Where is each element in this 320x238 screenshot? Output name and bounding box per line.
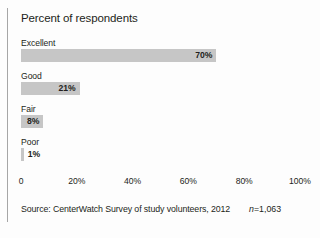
bar-category-label-good: Good xyxy=(21,71,300,81)
bar-row-fair: 8% xyxy=(21,115,300,128)
x-axis-tick-100: 100% xyxy=(289,176,311,187)
bar-value-label-excellent: 70% xyxy=(195,50,212,61)
bar-group-poor: Poor 1% xyxy=(21,137,300,161)
bar-good: 21% xyxy=(21,82,80,95)
bar-group-excellent: Excellent 70% xyxy=(21,38,300,62)
bar-value-label-good: 21% xyxy=(59,83,76,94)
sample-size-value: =1,063 xyxy=(254,204,281,214)
bar-poor: 1% xyxy=(21,148,24,161)
bar-chart-plot-area: Excellent 70% Good 21% Fair 8% xyxy=(21,38,300,172)
bar-fair: 8% xyxy=(21,115,43,128)
bar-category-label-excellent: Excellent xyxy=(21,38,300,48)
chart-figure: Percent of respondents Excellent 70% Goo… xyxy=(0,0,320,238)
x-axis-tick-60: 60% xyxy=(180,176,197,187)
sample-size-note: n=1,063 xyxy=(249,203,281,215)
left-vertical-rule xyxy=(7,8,8,222)
bar-value-label-fair: 8% xyxy=(27,116,39,127)
x-axis: 0 20% 40% 60% 80% 100% xyxy=(21,176,300,188)
bar-group-fair: Fair 8% xyxy=(21,104,300,128)
x-axis-tick-0: 0 xyxy=(19,176,24,187)
source-note: Source: CenterWatch Survey of study volu… xyxy=(21,203,230,215)
bar-category-label-poor: Poor xyxy=(21,137,300,147)
chart-title: Percent of respondents xyxy=(21,12,138,24)
source-row: Source: CenterWatch Survey of study volu… xyxy=(21,203,306,217)
bar-row-poor: 1% xyxy=(21,148,300,161)
bar-value-label-poor: 1% xyxy=(28,149,40,160)
bar-category-label-fair: Fair xyxy=(21,104,300,114)
bar-row-good: 21% xyxy=(21,82,300,95)
x-axis-tick-20: 20% xyxy=(68,176,85,187)
bar-excellent: 70% xyxy=(21,49,216,62)
x-axis-tick-80: 80% xyxy=(236,176,253,187)
bar-group-good: Good 21% xyxy=(21,71,300,95)
x-axis-tick-40: 40% xyxy=(124,176,141,187)
bar-row-excellent: 70% xyxy=(21,49,300,62)
